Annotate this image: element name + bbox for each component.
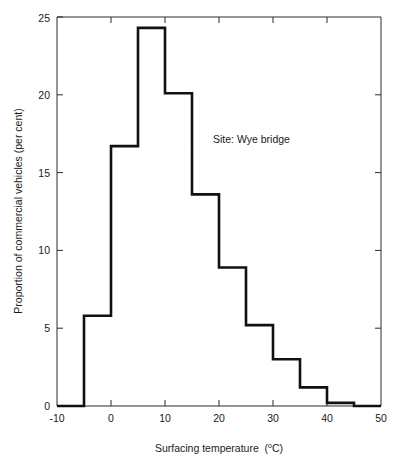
y-axis-title-text: Proportion of commercial vehicles (per c…: [12, 108, 24, 313]
y-tick-label-25: 25: [38, 12, 50, 24]
y-tick-label-15: 15: [38, 167, 50, 179]
y-tick-label-20: 20: [38, 89, 50, 101]
x-tick-label-40: 40: [321, 412, 333, 424]
x-tick-label-0: 0: [108, 412, 114, 424]
y-tick-label-5: 5: [44, 322, 50, 334]
x-tick-label-20: 20: [213, 412, 225, 424]
x-tick-labels: -10 0 10 20 30 40 50: [49, 412, 387, 424]
y-tick-labels: 0 5 10 15 20 25: [38, 12, 50, 413]
x-tick-label-30: 30: [267, 412, 279, 424]
x-tick-label-10: 10: [159, 412, 171, 424]
x-axis-unit-close: ): [280, 442, 284, 454]
y-axis-title: Proportion of commercial vehicles (per c…: [12, 108, 24, 313]
x-tick-label-50: 50: [375, 412, 387, 424]
x-tick-marks: [111, 17, 381, 406]
x-tick-label-minus10: -10: [49, 412, 64, 424]
histogram-chart: 0 5 10 15 20 25 -10: [0, 0, 401, 467]
y-tick-marks: [57, 17, 63, 406]
y-tick-label-10: 10: [38, 244, 50, 256]
figure-container: ­ ­ ­ ­ ­ ­ 0 5 10 15 20 25: [0, 0, 401, 467]
site-annotation-label: Site: Wye bridge: [213, 133, 290, 145]
x-axis-title-main: Surfacing temperature: [155, 442, 259, 454]
x-axis-title: Surfacing temperature (oC): [155, 442, 283, 454]
svg-text:Surfacing temperature (oC): Surfacing temperature (oC): [155, 442, 283, 454]
histogram-step-outline: [57, 28, 381, 406]
y-tick-label-0: 0: [44, 400, 50, 412]
